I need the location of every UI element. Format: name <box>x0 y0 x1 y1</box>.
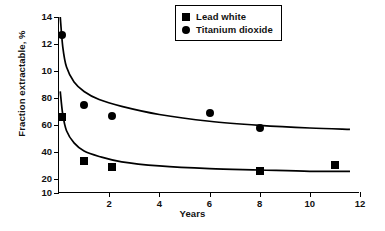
x-tick-label: 12 <box>355 199 366 209</box>
y-tick <box>54 193 59 194</box>
data-point-lead-white <box>256 167 264 175</box>
y-tick-label: 60 <box>41 121 52 131</box>
data-point-titanium-dioxide <box>108 112 116 120</box>
y-tick-label: 12 <box>41 39 52 49</box>
fit-curves <box>59 17 360 193</box>
chart-legend: Lead whiteTitanium dioxide <box>175 5 282 41</box>
legend-label: Titanium dioxide <box>196 24 273 35</box>
x-tick-label: 2 <box>107 199 112 209</box>
plot-area: 1412108060402010 24681012 <box>58 17 359 193</box>
legend-item: Lead white <box>182 10 273 23</box>
legend-item: Titanium dioxide <box>182 23 273 36</box>
data-point-lead-white <box>58 113 66 121</box>
x-tick-label: 10 <box>305 199 316 209</box>
y-tick-label: 10 <box>41 188 52 198</box>
legend-label: Lead white <box>196 11 246 22</box>
y-tick-label: 14 <box>41 12 52 22</box>
y-tick-label: 40 <box>41 148 52 158</box>
data-point-lead-white <box>108 163 116 171</box>
x-tick <box>109 192 110 197</box>
y-tick <box>54 179 59 180</box>
y-tick-label: 10 <box>41 66 52 76</box>
x-axis-title: Years <box>0 208 385 219</box>
x-tick-label: 4 <box>157 199 162 209</box>
x-tick <box>260 192 261 197</box>
x-tick <box>159 192 160 197</box>
y-axis-title: Fraction extractable, % <box>16 19 27 149</box>
y-tick <box>54 125 59 126</box>
y-tick <box>54 17 59 18</box>
circle-marker-icon <box>182 26 190 34</box>
y-tick <box>54 44 59 45</box>
y-tick <box>54 71 59 72</box>
data-point-titanium-dioxide <box>58 31 66 39</box>
y-tick <box>54 152 59 153</box>
y-tick-label: 80 <box>41 93 52 103</box>
x-tick-label: 6 <box>207 199 212 209</box>
data-point-titanium-dioxide <box>206 109 214 117</box>
x-tick <box>360 192 361 197</box>
x-tick <box>310 192 311 197</box>
y-tick-label: 20 <box>41 175 52 185</box>
data-point-lead-white <box>80 157 88 165</box>
x-tick-label: 8 <box>257 199 262 209</box>
fit-curve-lead-white <box>60 91 350 171</box>
y-tick <box>54 98 59 99</box>
x-tick <box>210 192 211 197</box>
square-marker-icon <box>182 13 190 21</box>
data-point-lead-white <box>331 161 339 169</box>
data-point-titanium-dioxide <box>80 101 88 109</box>
data-point-titanium-dioxide <box>256 124 264 132</box>
chart-figure: Fraction extractable, % Years 1412108060… <box>0 0 385 231</box>
